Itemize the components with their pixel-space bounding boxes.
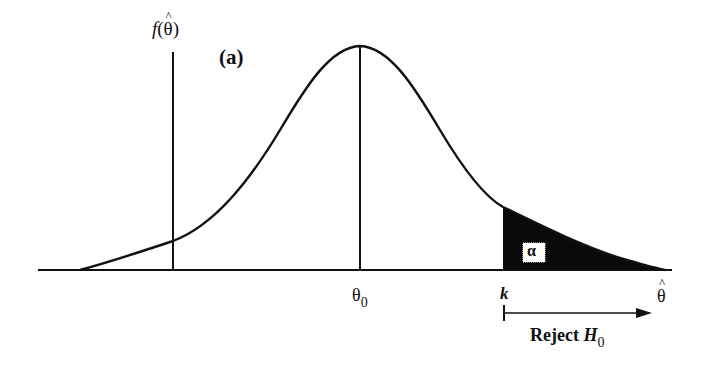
theta0-subscript: 0 [361, 295, 368, 310]
hat-icon: ^ [659, 276, 665, 289]
distribution-diagram [0, 0, 702, 378]
critical-value-label: k [500, 284, 509, 304]
y-close-paren: ) [173, 18, 179, 39]
reject-text: Reject [530, 325, 583, 345]
reject-arrow-head [636, 308, 652, 318]
x-axis-label: ^θ [657, 286, 666, 307]
alpha-label: α [527, 242, 536, 260]
theta0-symbol: θ [352, 285, 361, 305]
theta0-label: θ0 [352, 285, 368, 306]
y-theta-hat: ^θ [164, 18, 173, 39]
density-curve [80, 46, 665, 270]
reject-h-subscript: 0 [597, 335, 604, 350]
panel-label: (a) [219, 45, 244, 70]
y-axis-label: f(^θ) [152, 18, 179, 40]
reject-label: Reject H0 [530, 325, 604, 346]
hat-icon: ^ [166, 9, 172, 22]
reject-h-symbol: H [583, 325, 597, 345]
